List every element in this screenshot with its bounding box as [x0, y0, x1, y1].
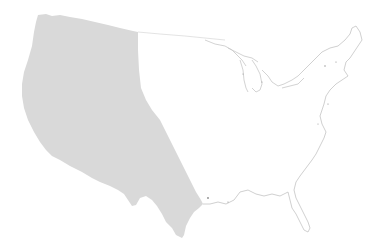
gulf-coast	[203, 190, 288, 204]
map-svg	[0, 0, 382, 247]
northern-border	[138, 32, 225, 40]
us-map	[0, 0, 382, 247]
east-coast	[288, 26, 362, 232]
great-lakes	[205, 40, 304, 92]
western-region	[22, 14, 203, 238]
coastal-specks	[207, 61, 337, 202]
